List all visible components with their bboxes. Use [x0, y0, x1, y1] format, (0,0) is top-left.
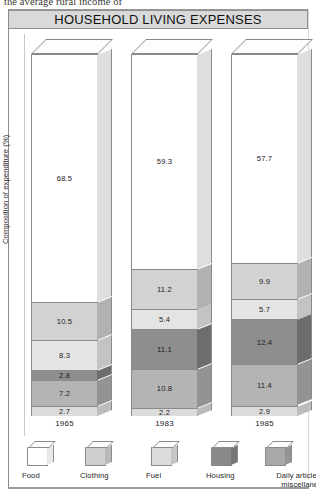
segment-value: 5.4: [159, 316, 170, 324]
segment-value: 11.1: [157, 346, 172, 354]
legend-item-daily-articles-and-miscellaneous[interactable]: Daily articles and miscellaneous: [260, 447, 316, 489]
segment-value: 8.3: [59, 352, 70, 360]
segment-housing[interactable]: 11.1: [131, 329, 198, 369]
segment-value: 12.4: [257, 339, 273, 347]
chart-title-bar: HOUSEHOLD LIVING EXPENSES: [9, 10, 308, 29]
x-axis-tick-1985: 1985: [231, 416, 298, 428]
bar-1983[interactable]: 59.311.25.411.110.82.21983: [131, 54, 198, 416]
segment-side-face: [297, 258, 312, 299]
legend-label: Food: [22, 471, 77, 480]
legend-item-fuel[interactable]: Fuel: [146, 447, 204, 480]
legend-label: Fuel: [146, 471, 204, 480]
plot-area: Composition of expenditure (%) 68.510.58…: [9, 30, 308, 440]
segment-side-face: [297, 314, 312, 364]
bar-top-face: [131, 39, 213, 54]
segment-services-and-recreation[interactable]: 2.2: [131, 408, 198, 416]
segment-housing[interactable]: 2.8: [31, 370, 98, 380]
segment-fuel[interactable]: 5.4: [131, 309, 198, 329]
bar-top-face: [231, 39, 313, 54]
segment-clothing[interactable]: 9.9: [231, 263, 298, 299]
page-title: HOUSEHOLD LIVING EXPENSES: [54, 12, 261, 27]
segment-value: 10.5: [57, 318, 73, 326]
legend-label: Clothing: [80, 471, 142, 480]
segment-value: 2.8: [59, 372, 70, 379]
bar-top-face: [31, 39, 113, 54]
segment-value: 2.9: [259, 408, 270, 415]
x-axis-tick-1983: 1983: [131, 416, 198, 428]
segment-value: 11.4: [257, 382, 272, 390]
segment-value: 57.7: [257, 155, 273, 163]
x-axis-tick-1965: 1965: [31, 416, 98, 428]
segment-clothing[interactable]: 10.5: [31, 302, 98, 340]
segment-housing[interactable]: 12.4: [231, 319, 298, 364]
segment-food[interactable]: 57.7: [231, 54, 298, 263]
segment-value: 9.9: [259, 278, 270, 286]
segment-value: 2.2: [159, 409, 170, 416]
bar-1965[interactable]: 68.510.58.32.87.22.71965: [31, 54, 98, 416]
segment-food[interactable]: 59.3: [131, 54, 198, 269]
segment-side-face: [297, 49, 312, 263]
segment-value: 68.5: [57, 175, 73, 183]
segment-daily-articles-and-miscellaneous[interactable]: 7.2: [31, 380, 98, 406]
legend-label: Daily articles and miscellaneous: [260, 471, 316, 489]
segment-side-face: [297, 359, 312, 405]
clipped-body-text: the average rural income of: [4, 0, 234, 8]
segment-side-face: [97, 297, 112, 340]
segment-services-and-recreation[interactable]: 2.9: [231, 406, 298, 416]
legend-item-clothing[interactable]: Clothing: [80, 447, 142, 480]
segment-value: 5.7: [259, 306, 270, 314]
segment-fuel[interactable]: 8.3: [31, 340, 98, 370]
segment-side-face: [97, 49, 112, 302]
segment-fuel[interactable]: 5.7: [231, 299, 298, 320]
segment-daily-articles-and-miscellaneous[interactable]: 11.4: [231, 364, 298, 405]
segment-value: 2.7: [59, 408, 70, 415]
segment-value: 59.3: [157, 158, 173, 166]
bar-1985[interactable]: 57.79.95.712.411.42.91985: [231, 54, 298, 416]
legend-swatch-icon: [211, 447, 232, 466]
segment-side-face: [197, 364, 212, 408]
y-axis-label: Composition of expenditure (%): [1, 68, 15, 244]
legend-label: Housing: [206, 471, 264, 480]
segment-food[interactable]: 68.5: [31, 54, 98, 302]
segment-services-and-recreation[interactable]: 2.7: [31, 406, 98, 416]
segment-value: 10.8: [157, 385, 173, 393]
segment-value: 11.2: [157, 286, 172, 294]
segment-side-face: [197, 324, 212, 369]
legend-swatch-icon: [27, 447, 48, 466]
segment-clothing[interactable]: 11.2: [131, 269, 198, 310]
segment-side-face: [197, 264, 212, 310]
legend-item-food[interactable]: Food: [22, 447, 77, 480]
legend-swatch-icon: [265, 447, 286, 466]
y-axis-line: [24, 34, 25, 436]
segment-side-face: [197, 49, 212, 269]
legend-item-housing[interactable]: Housing: [206, 447, 264, 480]
chart-legend: FoodClothingFuelHousingDaily articles an…: [22, 447, 304, 489]
legend-swatch-icon: [85, 447, 106, 466]
chart-page: the average rural income of HOUSEHOLD LI…: [0, 0, 316, 502]
legend-swatch-icon: [151, 447, 172, 466]
segment-value: 7.2: [59, 390, 70, 398]
segment-daily-articles-and-miscellaneous[interactable]: 10.8: [131, 369, 198, 408]
